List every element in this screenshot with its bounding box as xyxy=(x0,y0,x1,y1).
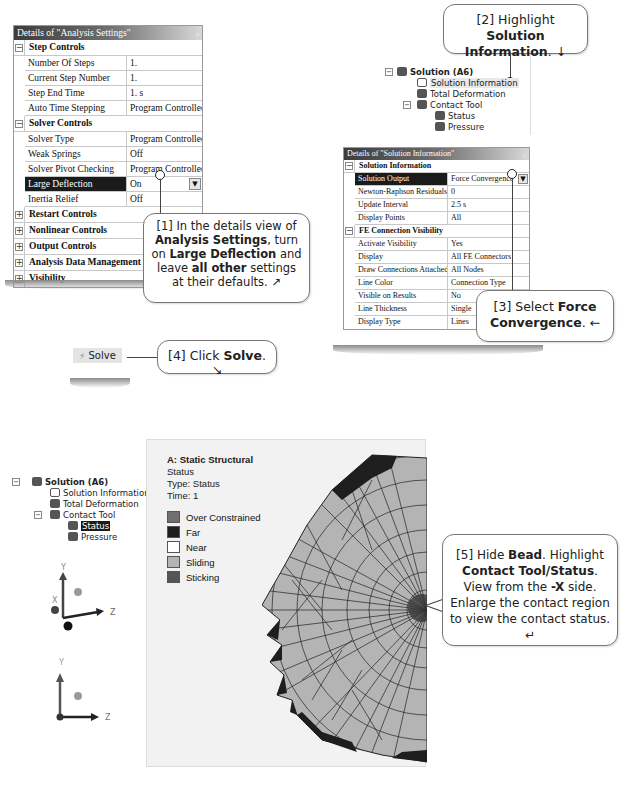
axis-z-label: Z xyxy=(110,608,116,617)
solution-icon xyxy=(397,67,407,76)
result-icon xyxy=(50,499,60,508)
table-row[interactable]: Current Step Number1. xyxy=(25,71,202,86)
tree-node-solution-information[interactable]: Solution Information xyxy=(417,77,519,88)
table-row[interactable]: Draw Connections Attached ToAll Nodes xyxy=(355,264,529,277)
contact-tool-icon xyxy=(417,100,427,109)
table-row[interactable]: Solver Pivot CheckingProgram Controlled xyxy=(25,162,202,177)
table-row[interactable]: Step End Time1. s xyxy=(25,86,202,101)
solution-tree-top: − Solution (A6) Solution Information Tot… xyxy=(383,60,513,140)
marker-force-convergence xyxy=(507,169,517,179)
tree-node-solution-information[interactable]: Solution Information xyxy=(50,487,150,498)
result-name: Status xyxy=(167,466,194,477)
result-time: Time: 1 xyxy=(167,490,198,501)
tree-node-contact-tool[interactable]: Contact Tool xyxy=(50,509,115,520)
callout-pointer xyxy=(127,357,157,358)
large-deflection-select[interactable]: On▼ xyxy=(127,177,202,191)
solve-button[interactable]: ⚡ Solve xyxy=(73,348,122,363)
solve-icon: ⚡ xyxy=(79,351,85,361)
table-row[interactable]: Line ColorConnection Type xyxy=(355,277,529,290)
contact-tool-icon xyxy=(50,510,60,519)
legend-sticking: Sticking xyxy=(167,571,219,583)
solution-tree-bottom: − Solution (A6) Solution Information Tot… xyxy=(10,473,150,553)
tree-node-contact-tool[interactable]: Contact Tool xyxy=(417,99,482,110)
result-type: Type: Status xyxy=(167,478,220,489)
group-step-controls[interactable]: −Step Controls xyxy=(14,40,202,56)
result-icon xyxy=(68,532,78,541)
legend-sliding: Sliding xyxy=(167,556,215,568)
legend-near: Near xyxy=(167,541,207,553)
collapse-icon[interactable]: − xyxy=(15,44,23,52)
dropdown-arrow-icon[interactable]: ▼ xyxy=(518,174,528,184)
result-icon xyxy=(435,111,445,120)
tree-node-pressure[interactable]: Pressure xyxy=(435,121,484,132)
collapse-icon[interactable]: − xyxy=(345,162,353,170)
svg-text:Y: Y xyxy=(58,658,64,667)
collapse-icon[interactable]: − xyxy=(15,120,23,128)
result-icon xyxy=(417,89,427,98)
collapse-icon[interactable]: − xyxy=(385,68,393,76)
contact-mesh xyxy=(262,450,427,765)
svg-text:Z: Z xyxy=(105,713,111,722)
table-row[interactable]: Activate VisibilityYes xyxy=(355,238,529,251)
analysis-settings-title: Details of "Analysis Settings" ᵩ xyxy=(14,26,202,40)
pin-icon[interactable]: ᵩ xyxy=(523,148,526,160)
dropdown-arrow-icon[interactable]: ▼ xyxy=(189,178,201,190)
result-icon xyxy=(68,521,78,530)
table-row[interactable]: Update Interval2.5 s xyxy=(355,199,529,212)
tree-node-solution[interactable]: Solution (A6) xyxy=(32,476,108,487)
group-solver-controls[interactable]: −Solver Controls xyxy=(14,116,202,132)
large-deflection-row[interactable]: Large DeflectionOn▼ xyxy=(25,177,202,192)
table-row[interactable]: Newton-Raphson Residuals0 xyxy=(355,186,529,199)
table-row[interactable]: Display PointsAll xyxy=(355,212,529,225)
table-row[interactable]: Number Of Steps1. xyxy=(25,56,202,71)
collapse-icon[interactable]: − xyxy=(12,478,20,486)
legend-far: Far xyxy=(167,526,200,538)
expand-icon[interactable]: + xyxy=(15,259,23,267)
legend-over-constrained: Over Constrained xyxy=(167,511,260,523)
axis-triad-isometric: Y Z X xyxy=(30,560,130,640)
button-shadow xyxy=(70,378,130,388)
table-row[interactable]: Weak SpringsOff xyxy=(25,147,202,162)
callout-step-2: [2] Highlight Solution Information. ↓ xyxy=(443,4,588,54)
panel-shadow xyxy=(333,345,543,355)
solution-icon xyxy=(32,477,42,486)
expand-icon[interactable]: + xyxy=(15,243,23,251)
tree-node-total-deformation[interactable]: Total Deformation xyxy=(417,88,506,99)
info-icon xyxy=(50,488,60,497)
table-row[interactable]: DisplayAll FE Connectors xyxy=(355,251,529,264)
pin-icon[interactable]: ᵩ xyxy=(196,26,199,40)
axis-x-label: X xyxy=(52,596,58,605)
solution-output-row[interactable]: Solution OutputForce Convergence▼ xyxy=(355,173,529,186)
callout-pointer xyxy=(425,605,442,612)
table-row[interactable]: Solver TypeProgram Controlled xyxy=(25,132,202,147)
axis-triad-minus-x: Y Z xyxy=(30,655,130,730)
tree-node-status[interactable]: Status xyxy=(435,110,475,121)
contact-status-viewport[interactable]: A: Static Structural Status Type: Status… xyxy=(146,439,426,767)
collapse-icon[interactable]: − xyxy=(34,511,42,519)
callout-pointer xyxy=(512,179,513,291)
group-solution-information[interactable]: −Solution Information xyxy=(344,160,529,173)
expand-icon[interactable]: + xyxy=(15,227,23,235)
tree-node-status[interactable]: Status xyxy=(68,520,110,531)
result-icon xyxy=(435,122,445,131)
axis-y-label: Y xyxy=(60,563,66,572)
result-title: A: Static Structural xyxy=(167,454,253,465)
tree-node-total-deformation[interactable]: Total Deformation xyxy=(50,498,139,509)
divider xyxy=(530,55,531,135)
expand-icon[interactable]: + xyxy=(15,211,23,219)
tree-node-solution[interactable]: Solution (A6) xyxy=(397,66,473,77)
callout-step-3: [3] Select Force Convergence. ← xyxy=(476,290,614,342)
callout-step-5: [5] Hide Bead. Highlight Contact Tool/St… xyxy=(442,534,618,646)
solution-information-title: Details of "Solution Information" ᵩ xyxy=(344,148,529,160)
tree-node-pressure[interactable]: Pressure xyxy=(68,531,117,542)
table-row[interactable]: Inertia ReliefOff xyxy=(25,192,202,207)
marker-large-deflection xyxy=(155,170,165,180)
collapse-icon[interactable]: − xyxy=(403,101,411,109)
group-fe-connection-visibility[interactable]: −FE Connection Visibility xyxy=(344,225,529,238)
info-icon xyxy=(417,78,427,87)
callout-step-1: [1] In the details view of Analysis Sett… xyxy=(143,213,310,303)
collapse-icon[interactable]: − xyxy=(345,227,353,235)
table-row[interactable]: Auto Time SteppingProgram Controlled xyxy=(25,101,202,116)
callout-step-4: [4] Click Solve. ↘ xyxy=(157,340,277,374)
